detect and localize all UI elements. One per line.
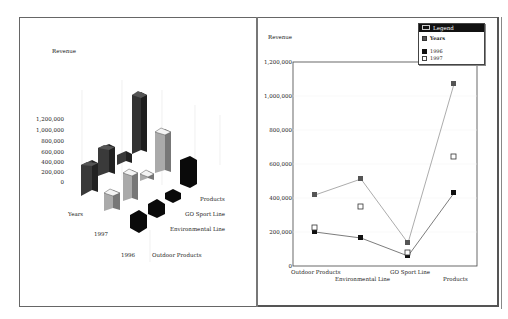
markers-1996 [312,190,456,258]
x-tick-environmental-line: Environmental Line [335,276,390,282]
legend-panel[interactable]: Legend Years 1996 1997 [418,23,485,65]
legend-title: Legend [433,25,454,31]
series-swatch-icon [422,36,427,41]
x-tick-go-sport-line: GO Sport Line [390,269,430,275]
line-total [315,84,454,243]
legend-group: Years [422,35,445,42]
legend-item-1997: 1997 [422,55,443,62]
legend-label: 1996 [430,48,443,54]
markers-1997 [312,154,456,255]
legend-item-1996: 1996 [422,48,443,55]
line-1996 [315,193,454,256]
x-tick-outdoor-products: Outdoor Products [291,269,341,275]
x-tick-products: Products [443,276,468,282]
swatch-1996-icon [422,49,427,54]
swatch-1997-icon [422,56,427,61]
legend-label: 1997 [430,55,443,61]
legend-group-label: Years [430,35,445,41]
legend-title-bar[interactable]: Legend [419,24,484,32]
legend-window-icon [422,25,430,30]
